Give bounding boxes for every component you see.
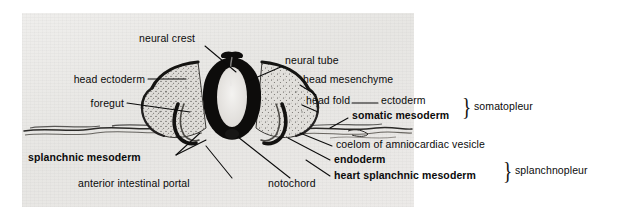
leader-coelom — [300, 133, 332, 146]
leader-heart-splanchnic-mesoderm — [306, 160, 330, 176]
label-coelom-of-amniocardiac-vesicle: coelom of amniocardiac vesicle — [336, 139, 485, 150]
label-anterior-intestinal-portal: anterior intestinal portal — [78, 178, 190, 189]
label-somatic-mesoderm: somatic mesoderm — [352, 110, 449, 121]
leader-endoderm — [288, 138, 330, 160]
splanchnopleur-brace: } — [503, 158, 512, 184]
leader-somatic-mesoderm — [330, 118, 348, 128]
label-endoderm: endoderm — [334, 154, 386, 165]
notochord-body — [225, 129, 239, 139]
label-splanchnopleur: splanchnopleur — [515, 165, 588, 176]
neural-tube-lumen — [217, 67, 247, 127]
specimen-body — [24, 51, 412, 143]
label-neural-tube: neural tube — [285, 55, 339, 66]
embryo-cross-section-figure: neural crest neural tube head ectoderm h… — [0, 0, 621, 217]
label-foregut: foregut — [91, 98, 124, 109]
leader-anterior-intestinal-portal — [206, 146, 232, 178]
label-heart-splanchnic-mesoderm: heart splanchnic mesoderm — [334, 170, 476, 181]
label-neural-crest: neural crest — [139, 33, 195, 44]
label-head-ectoderm: head ectoderm — [74, 74, 145, 85]
label-somatopleur: somatopleur — [474, 101, 533, 112]
label-head-mesenchyme: head mesenchyme — [303, 74, 393, 85]
label-notochord: notochord — [268, 178, 316, 189]
somatopleur-brace: } — [462, 94, 471, 120]
neural-tube-wall — [203, 51, 261, 139]
right-extraembryonic-membrane — [298, 124, 412, 138]
label-splanchnic-mesoderm: splanchnic mesoderm — [28, 152, 141, 163]
label-ectoderm: ectoderm — [381, 95, 426, 106]
label-head-fold: head fold — [306, 95, 350, 106]
